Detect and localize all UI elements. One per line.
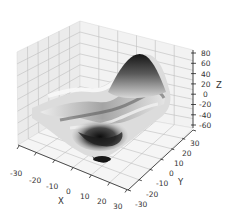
y-tick-label: 30 — [190, 139, 200, 148]
z-tick-label: 60 — [201, 59, 211, 68]
x-tick-label: -30 — [10, 169, 22, 178]
y-tick-label: -20 — [146, 190, 158, 199]
x-axis-label: X — [58, 196, 64, 206]
y-tick-label: -10 — [156, 179, 168, 188]
surface-plot: 80 60 40 20 0 -20 -40 -60 Z -30 -20 -10 … — [0, 0, 232, 221]
x-tick-label: -10 — [46, 182, 58, 191]
z-tick-label: -60 — [199, 121, 211, 130]
x-tick-label: 0 — [66, 187, 71, 196]
y-tick-label: -30 — [135, 200, 147, 209]
y-tick-label: 20 — [182, 149, 192, 158]
z-axis: 80 60 40 20 0 -20 -40 -60 Z — [191, 49, 222, 130]
z-axis-label: Z — [216, 80, 222, 90]
y-axis-label: Y — [177, 177, 184, 187]
x-tick-label: -20 — [29, 176, 41, 185]
z-tick-label: -20 — [199, 100, 211, 109]
x-tick-label: 20 — [97, 197, 107, 206]
z-tick-label: -40 — [199, 111, 211, 120]
y-tick-label: 10 — [174, 159, 184, 168]
z-tick-label: 20 — [201, 80, 211, 89]
y-tick-label: 0 — [169, 169, 174, 178]
x-tick-label: 10 — [80, 192, 90, 201]
z-tick-label: 0 — [203, 90, 208, 99]
z-tick-label: 40 — [201, 70, 211, 79]
z-tick-label: 80 — [201, 49, 211, 58]
x-tick-label: 30 — [113, 202, 123, 211]
